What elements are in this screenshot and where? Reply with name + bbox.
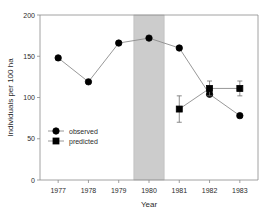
- y-tick-label: 150: [23, 53, 35, 60]
- data-point-observed: [146, 35, 152, 41]
- x-tick-label: 1978: [81, 187, 97, 194]
- x-tick-label: 1979: [111, 187, 127, 194]
- data-point-observed: [55, 55, 61, 61]
- y-tick-label: 50: [27, 135, 35, 142]
- x-tick-label: 1982: [202, 187, 218, 194]
- data-point-observed: [116, 40, 122, 46]
- data-point-observed: [237, 112, 243, 118]
- x-tick-label: 1977: [50, 187, 66, 194]
- chart-figure: 0501001502001977197819791980198119821983…: [0, 0, 270, 213]
- data-point-predicted: [176, 106, 182, 112]
- x-tick-label: 1980: [141, 187, 157, 194]
- data-point-predicted: [237, 85, 243, 91]
- legend-marker-predicted: [53, 138, 59, 144]
- x-tick-label: 1981: [171, 187, 187, 194]
- y-tick-label: 100: [23, 94, 35, 101]
- x-tick-label: 1983: [232, 187, 248, 194]
- legend-marker-observed: [53, 128, 59, 134]
- data-point-predicted: [207, 85, 213, 91]
- y-tick-label: 0: [31, 177, 35, 184]
- x-axis-title: Year: [141, 200, 158, 209]
- legend-label-predicted: predicted: [69, 138, 98, 146]
- chart-canvas: 0501001502001977197819791980198119821983…: [0, 0, 270, 213]
- legend-label-observed: observed: [69, 128, 98, 135]
- data-point-observed: [176, 45, 182, 51]
- data-point-observed: [85, 79, 91, 85]
- y-axis-title: Individuals per 100 ha: [6, 58, 15, 137]
- y-tick-label: 200: [23, 12, 35, 19]
